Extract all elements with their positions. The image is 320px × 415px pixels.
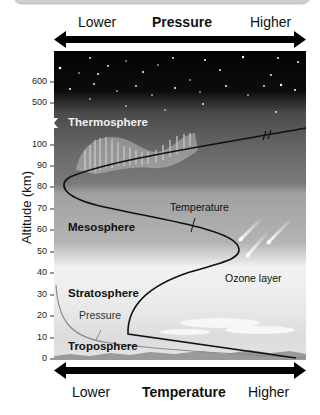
y-axis-label: Altitude (km) — [19, 168, 34, 248]
tick-0: 0 — [25, 353, 47, 363]
tick-10: 10 — [25, 332, 47, 342]
label-troposphere: Troposphere — [68, 340, 138, 352]
label-ozone-layer: Ozone layer — [225, 272, 282, 284]
temperature-arrow — [54, 362, 306, 379]
label-pressure: Pressure — [79, 309, 121, 321]
tick-40: 40 — [25, 267, 47, 277]
tick-20: 20 — [25, 310, 47, 320]
temperature-higher-label: Higher — [248, 384, 289, 400]
tick-50: 50 — [25, 246, 47, 256]
label-thermosphere: Thermosphere — [68, 116, 148, 128]
label-temperature: Temperature — [170, 201, 229, 213]
pressure-arrow — [54, 31, 306, 48]
label-stratosphere: Stratosphere — [68, 287, 139, 299]
temperature-axis-title: Temperature — [142, 384, 226, 400]
tick-100: 100 — [25, 139, 47, 149]
tick-600: 600 — [25, 76, 47, 86]
label-mesosphere: Mesosphere — [68, 221, 135, 233]
atmosphere-diagram — [0, 0, 320, 415]
tick-500: 500 — [25, 97, 47, 107]
temperature-lower-label: Lower — [72, 384, 110, 400]
tick-30: 30 — [25, 289, 47, 299]
